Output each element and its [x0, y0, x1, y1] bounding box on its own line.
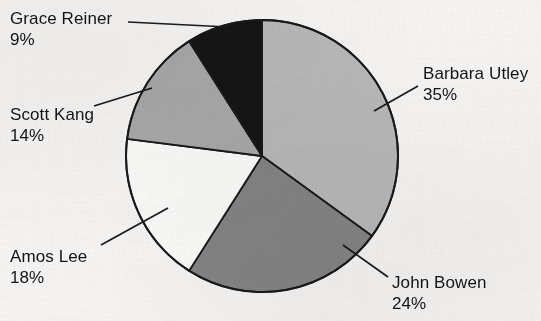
- pie-chart-screenshot: Grace Reiner 9% Scott Kang 14% Amos Lee …: [0, 0, 541, 321]
- slice-label-barbara-utley-name: Barbara Utley: [423, 64, 528, 83]
- slice-label-john-bowen-name: John Bowen: [392, 273, 487, 292]
- slice-label-amos-lee: Amos Lee 18%: [10, 246, 87, 288]
- slice-label-grace-reiner-percent: 9%: [10, 29, 112, 50]
- slice-label-scott-kang-percent: 14%: [10, 125, 94, 146]
- slice-label-amos-lee-name: Amos Lee: [10, 247, 87, 266]
- slice-label-grace-reiner: Grace Reiner 9%: [10, 8, 112, 50]
- leader-line-grace-reiner: [128, 22, 228, 27]
- slice-label-john-bowen: John Bowen 24%: [392, 272, 487, 314]
- slice-label-barbara-utley-percent: 35%: [423, 84, 528, 105]
- slice-label-scott-kang-name: Scott Kang: [10, 105, 94, 124]
- slice-label-barbara-utley: Barbara Utley 35%: [423, 63, 528, 105]
- slice-label-grace-reiner-name: Grace Reiner: [10, 9, 112, 28]
- slice-label-amos-lee-percent: 18%: [10, 267, 87, 288]
- slice-label-john-bowen-percent: 24%: [392, 293, 487, 314]
- slice-label-scott-kang: Scott Kang 14%: [10, 104, 94, 146]
